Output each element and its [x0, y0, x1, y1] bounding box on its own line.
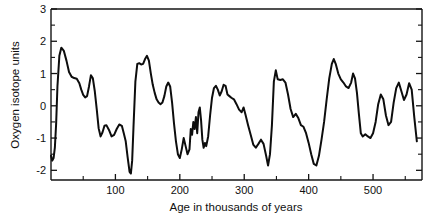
- y-tick-label: 1: [40, 68, 46, 80]
- oxygen-isotope-chart-figure: -2-10123 100200300400500 Age in thousand…: [0, 0, 443, 215]
- y-tick-label: -2: [36, 164, 46, 176]
- y-tick-label: 0: [40, 100, 46, 112]
- x-tick-label: 400: [299, 184, 317, 196]
- y-tick-label: 3: [40, 3, 46, 15]
- x-axis-title: Age in thousands of years: [170, 201, 303, 213]
- x-tick-label: 500: [364, 184, 382, 196]
- y-axis-title: Oxygen isotope units: [9, 41, 21, 149]
- x-tick-label: 100: [106, 184, 124, 196]
- y-tick-label: 2: [40, 35, 46, 47]
- x-tick-label: 300: [235, 184, 253, 196]
- chart-canvas: -2-10123 100200300400500 Age in thousand…: [0, 0, 443, 215]
- x-tick-label: 200: [171, 184, 189, 196]
- chart-background: [0, 0, 443, 215]
- y-tick-label: -1: [36, 132, 46, 144]
